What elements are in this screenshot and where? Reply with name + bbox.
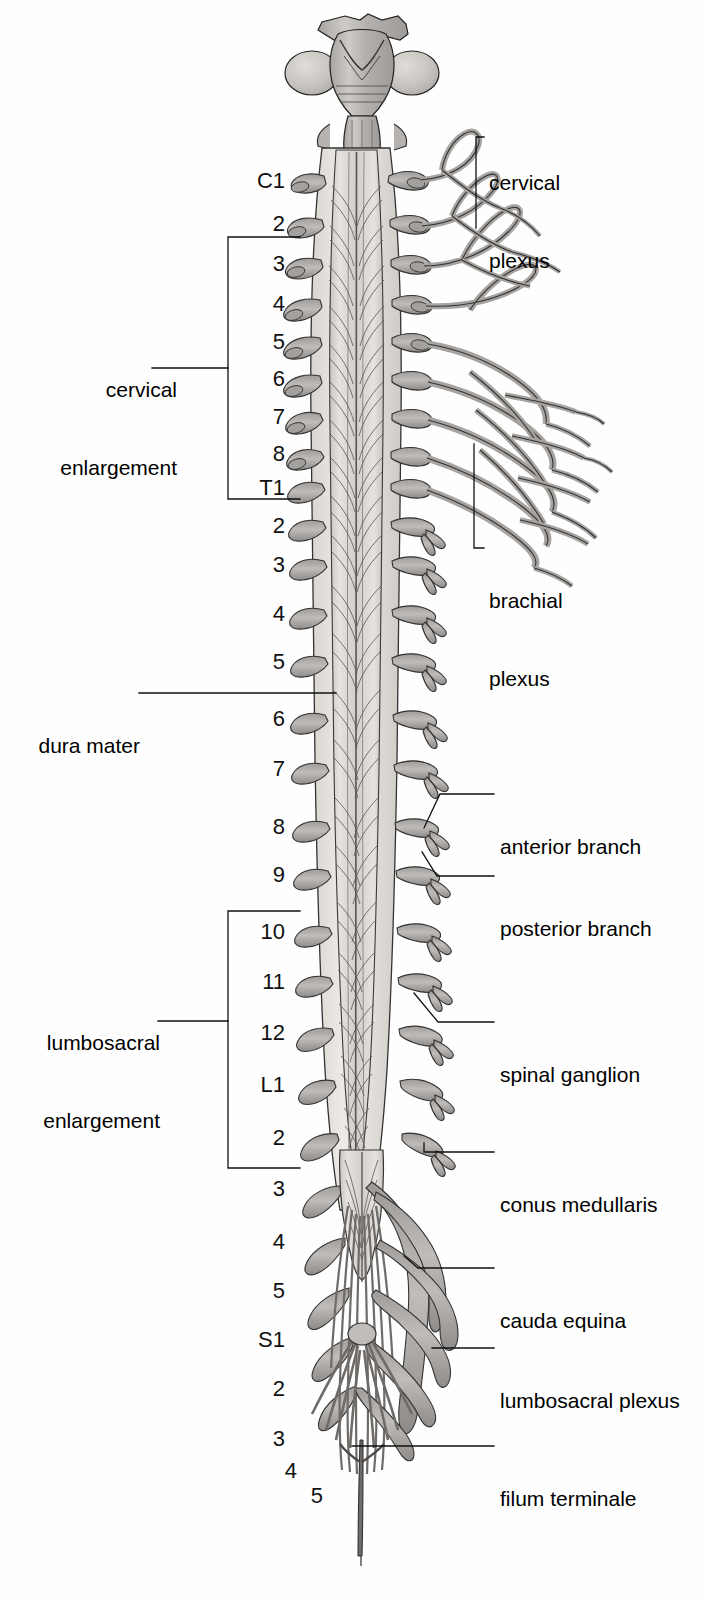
segment-label: 2	[225, 513, 285, 539]
brachial-plexus-leader	[474, 444, 484, 548]
label-brachial-plexus: brachial plexus	[489, 536, 563, 744]
label-lumbosacral-enlargement-line2: enlargement	[32, 1108, 160, 1134]
segment-label: L1	[225, 1072, 285, 1098]
segment-label: 4	[225, 291, 285, 317]
anterior-branch-leader	[424, 794, 494, 828]
segment-label: 9	[225, 862, 285, 888]
segment-label: S1	[225, 1327, 285, 1353]
segment-label: 5	[225, 1278, 285, 1304]
label-spinal-ganglion-text: spinal ganglion	[500, 1062, 640, 1088]
label-cervical-plexus: cervical plexus	[489, 118, 560, 326]
segment-label: 7	[225, 404, 285, 430]
segment-label: 2	[225, 1125, 285, 1151]
segment-label: 4	[237, 1458, 297, 1484]
label-filum-terminale: filum terminale	[500, 1435, 637, 1563]
segment-label: T1	[225, 475, 285, 501]
segment-label: 4	[225, 601, 285, 627]
segment-label: 7	[225, 756, 285, 782]
segment-label: 12	[225, 1020, 285, 1046]
sacral-ganglion	[348, 1323, 376, 1345]
segment-label: 4	[225, 1229, 285, 1255]
segment-label: 5	[225, 329, 285, 355]
label-conus-medullaris: conus medullaris	[500, 1141, 658, 1269]
dura-mater-sheath	[311, 148, 401, 1210]
segment-label: 3	[225, 1426, 285, 1452]
label-anterior-branch-text: anterior branch	[500, 834, 641, 860]
filum-terminale-strand	[340, 1440, 384, 1566]
segment-label: C1	[225, 168, 285, 194]
segment-label: 8	[225, 441, 285, 467]
spinal-ganglion-leader	[414, 993, 494, 1022]
label-posterior-branch-text: posterior branch	[500, 916, 652, 942]
segment-label: 2	[225, 211, 285, 237]
label-lumbosacral-enlargement: lumbosacral enlargement	[32, 978, 160, 1186]
segment-label: 3	[225, 1176, 285, 1202]
label-dura-mater-text: dura mater	[32, 733, 140, 759]
brainstem-group	[285, 14, 439, 152]
segment-label: 8	[225, 814, 285, 840]
label-conus-medullaris-text: conus medullaris	[500, 1192, 658, 1218]
segment-label: 5	[263, 1483, 323, 1509]
label-filum-terminale-text: filum terminale	[500, 1486, 637, 1512]
label-cervical-enlargement: cervical enlargement	[32, 325, 177, 533]
segment-label: 3	[225, 251, 285, 277]
label-cauda-equina-text: cauda equina	[500, 1308, 626, 1334]
label-dura-mater: dura mater	[32, 682, 140, 810]
label-cervical-plexus-line1: cervical	[489, 170, 560, 196]
label-cervical-enlargement-line1: cervical	[32, 377, 177, 403]
segment-label: 6	[225, 366, 285, 392]
segment-label: 10	[225, 919, 285, 945]
segment-label: 2	[225, 1376, 285, 1402]
label-cervical-enlargement-line2: enlargement	[32, 455, 177, 481]
label-posterior-branch: posterior branch	[500, 865, 652, 993]
label-brachial-plexus-line1: brachial	[489, 588, 563, 614]
segment-label: 3	[225, 552, 285, 578]
label-lumbosacral-enlargement-line1: lumbosacral	[32, 1030, 160, 1056]
label-lumbosacral-plexus-text: lumbosacral plexus	[500, 1388, 680, 1414]
segment-label: 11	[225, 969, 285, 995]
label-spinal-ganglion: spinal ganglion	[500, 1011, 640, 1139]
segment-label: 5	[225, 649, 285, 675]
label-cervical-plexus-line2: plexus	[489, 248, 560, 274]
label-brachial-plexus-line2: plexus	[489, 666, 563, 692]
segment-label: 6	[225, 706, 285, 732]
spinal-cord-figure: C12345678T123456789101112L12345S12345 ce…	[0, 0, 707, 1602]
